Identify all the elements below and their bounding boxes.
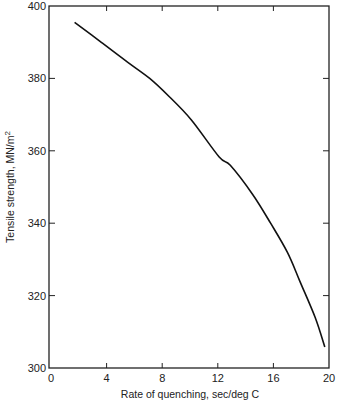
y-tick-label: 380 xyxy=(28,72,46,84)
line-chart: 048121620 300320340360380400 Rate of que… xyxy=(0,0,340,406)
y-axis-label: Tensile strength, MN/m2 xyxy=(3,131,16,243)
y-axis-ticks: 300320340360380400 xyxy=(28,0,329,374)
y-tick-label: 360 xyxy=(28,145,46,157)
x-tick-label: 12 xyxy=(212,372,224,384)
x-axis-label: Rate of quenching, sec/deg C xyxy=(121,388,260,400)
y-tick-label: 320 xyxy=(28,290,46,302)
y-tick-label: 400 xyxy=(28,0,46,12)
y-tick-label: 340 xyxy=(28,217,46,229)
x-tick-label: 0 xyxy=(48,372,54,384)
y-tick-label: 300 xyxy=(28,362,46,374)
x-tick-label: 20 xyxy=(323,372,335,384)
plot-frame xyxy=(49,6,329,368)
x-tick-label: 4 xyxy=(104,372,110,384)
x-tick-label: 16 xyxy=(267,372,279,384)
x-tick-label: 8 xyxy=(159,372,165,384)
x-axis-ticks: 048121620 xyxy=(48,6,335,384)
data-curve xyxy=(75,22,325,347)
